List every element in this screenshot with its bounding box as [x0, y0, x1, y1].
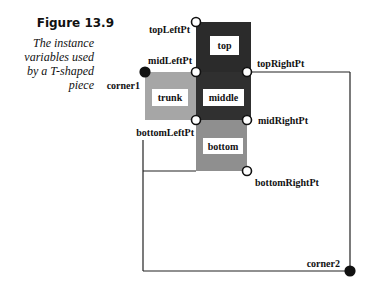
- t-piece-diagram: top middle trunk bottom topLeftPt midLef…: [0, 0, 374, 287]
- point-topLeftPt-icon: [192, 18, 201, 27]
- point-label-topRightPt: topRightPt: [257, 58, 305, 69]
- block-label-top: top: [218, 40, 232, 51]
- point-label-midRightPt: midRightPt: [258, 115, 309, 126]
- point-label-midLeftPt: midLeftPt: [148, 55, 193, 66]
- point-label-corner2: corner2: [307, 258, 340, 269]
- block-label-trunk: trunk: [158, 92, 183, 103]
- point-label-bottomLeftPt: bottomLeftPt: [136, 127, 194, 138]
- point-bottomLeftPt-icon: [192, 116, 201, 125]
- point-corner1-icon: [140, 67, 150, 77]
- point-midLeftPt-icon: [192, 68, 201, 77]
- point-midRightPt-icon: [243, 116, 252, 125]
- block-label-bottom: bottom: [208, 141, 239, 152]
- point-label-topLeftPt: topLeftPt: [149, 24, 191, 35]
- point-label-corner1: corner1: [107, 80, 140, 91]
- point-label-bottomRightPt: bottomRightPt: [255, 177, 320, 188]
- point-bottomRightPt-icon: [243, 167, 252, 176]
- block-label-middle: middle: [209, 92, 239, 103]
- point-corner2-icon: [345, 266, 355, 276]
- point-topRightPt-icon: [243, 68, 252, 77]
